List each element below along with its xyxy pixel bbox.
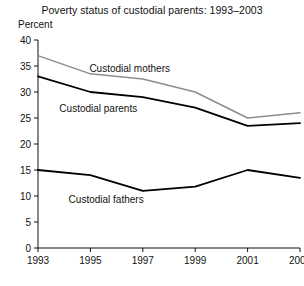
- x-tick-label: 2003: [289, 255, 304, 266]
- series-label: Custodial fathers: [69, 194, 144, 205]
- y-tick-label: 15: [20, 165, 32, 176]
- plot-area: 0510152025303540 19931995199719992001200…: [0, 0, 304, 286]
- y-tick-label: 30: [20, 87, 32, 98]
- y-tick-label: 0: [25, 243, 31, 254]
- series-lines: [38, 56, 300, 191]
- y-tick-label: 20: [20, 139, 32, 150]
- series-line: [38, 76, 300, 125]
- y-tick-label: 40: [20, 35, 32, 46]
- series-label: Custodial parents: [59, 103, 137, 114]
- x-tick-label: 2001: [236, 255, 259, 266]
- y-tick-label: 35: [20, 61, 32, 72]
- y-tick-label: 5: [25, 217, 31, 228]
- x-tick-label: 1997: [132, 255, 155, 266]
- series-label: Custodial mothers: [89, 63, 170, 74]
- series-line: [38, 170, 300, 191]
- chart-container: Poverty status of custodial parents: 199…: [0, 0, 304, 286]
- chart-svg: 0510152025303540 19931995199719992001200…: [0, 0, 304, 286]
- x-tick-label: 1993: [27, 255, 50, 266]
- y-tick-label: 10: [20, 191, 32, 202]
- y-axis-ticks: 0510152025303540: [20, 35, 38, 254]
- x-axis-ticks: 199319951997199920012003: [27, 248, 304, 266]
- x-tick-label: 1995: [79, 255, 102, 266]
- series-labels: Custodial mothersCustodial parentsCustod…: [59, 63, 170, 205]
- y-tick-label: 25: [20, 113, 32, 124]
- x-tick-label: 1999: [184, 255, 207, 266]
